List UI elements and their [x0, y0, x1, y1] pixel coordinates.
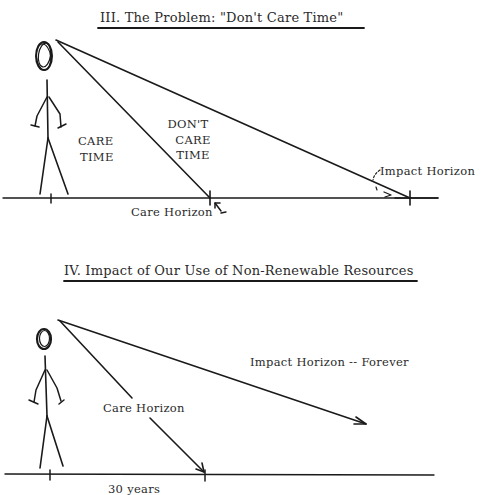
care-horizon-label-iv: Care Horizon — [103, 403, 185, 415]
stick-figure-iv — [29, 329, 64, 468]
dont-care-time-label: DON'T CARE TIME — [160, 119, 226, 162]
impact-horizon-label-iii: Impact Horizon — [380, 166, 475, 178]
panel-iv-drawing — [5, 281, 434, 481]
impact-horizon-forever-label: Impact Horizon -- Forever — [250, 357, 409, 369]
dont-care-line2: CARE — [160, 135, 226, 147]
dont-care-line1: DON'T — [150, 119, 226, 131]
title-iii: III. The Problem: "Don't Care Time" — [100, 11, 343, 24]
impact-sight-line — [56, 40, 410, 198]
thirty-years-label: 30 years — [108, 484, 160, 495]
care-horizon-pointer-icon — [215, 203, 226, 213]
stick-figure-iii — [31, 42, 68, 194]
title-iv: IV. Impact of Our Use of Non-Renewable R… — [64, 264, 414, 277]
care-horizon-label-iii: Care Horizon — [131, 207, 213, 219]
timeline-iv — [5, 474, 434, 475]
care-time-line2: TIME — [80, 152, 114, 164]
care-time-line1: CARE — [78, 136, 114, 148]
care-time-label: CARE TIME — [78, 136, 114, 163]
dont-care-line3: TIME — [160, 150, 226, 162]
diagram-canvas — [0, 0, 488, 495]
